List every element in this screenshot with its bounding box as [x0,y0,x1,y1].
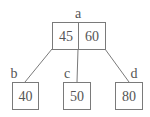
btree-diagram: a 45 60 b 40 c 50 d 80 [0,0,150,117]
node-c-label: c [64,66,70,81]
node-c-key: 50 [70,89,84,104]
node-a: a 45 60 [53,6,106,50]
node-d-key: 80 [122,89,136,104]
edge-a-d [105,49,129,82]
node-d-label: d [131,66,138,81]
node-b-label: b [11,66,18,81]
node-b-key: 40 [19,89,33,104]
edge-a-b [25,49,52,82]
node-d: d 80 [116,66,143,110]
node-a-key-1: 45 [59,29,73,44]
node-a-key-2: 60 [85,29,99,44]
node-a-label: a [75,6,82,21]
edge-a-c [77,49,78,82]
node-b: b 40 [11,66,39,110]
